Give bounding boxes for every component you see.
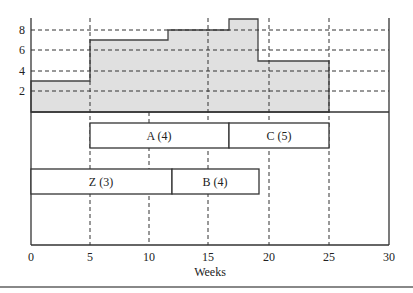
x-tick-15: 15: [202, 250, 214, 264]
resource-profile-area: [31, 19, 329, 112]
bottom-rule: [0, 286, 413, 288]
y-tick-labels: 2 4 6 8: [19, 23, 25, 98]
bar-a-label: A (4): [147, 129, 172, 143]
bar-c-label: C (5): [267, 129, 292, 143]
x-axis-label: Weeks: [194, 265, 226, 279]
y-tick-8: 8: [19, 23, 25, 37]
x-tick-20: 20: [263, 250, 275, 264]
x-tick-25: 25: [323, 250, 335, 264]
y-tick-2: 2: [19, 84, 25, 98]
bar-z-label: Z (3): [89, 175, 113, 189]
resource-chart: 2 4 6 8 A (4) C (5) Z (3) B (4) 0 5 10 1…: [0, 0, 413, 293]
x-tick-30: 30: [383, 250, 395, 264]
x-tick-0: 0: [28, 250, 34, 264]
x-tick-5: 5: [87, 250, 93, 264]
y-tick-4: 4: [19, 64, 25, 78]
x-tick-10: 10: [143, 250, 155, 264]
y-tick-6: 6: [19, 43, 25, 57]
x-tick-labels: 0 5 10 15 20 25 30: [28, 250, 395, 264]
bar-b-label: B (4): [203, 175, 228, 189]
